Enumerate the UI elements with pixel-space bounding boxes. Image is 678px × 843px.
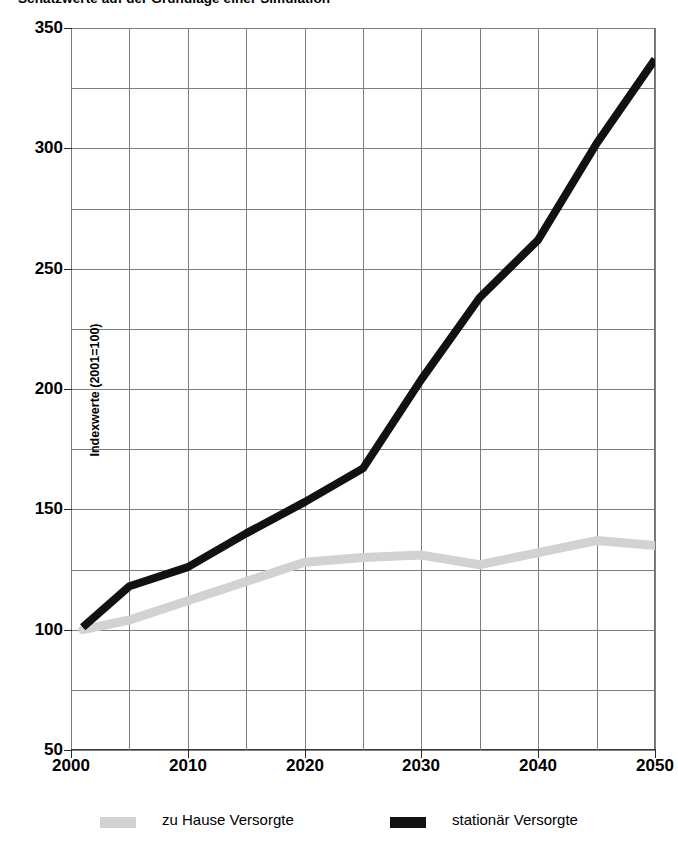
series-line-zu-hause-versorgte	[83, 541, 655, 630]
y-axis-tick-label: 350	[17, 19, 63, 36]
y-axis-tick-labels: 35030025020015010050	[8, 28, 63, 750]
x-axis-tick-label: 2020	[265, 757, 345, 774]
plot-area: Indexwerte (2001=100)	[71, 28, 655, 750]
chart-legend: zu Hause Versorgte stationär Versorgte	[0, 805, 669, 843]
legend-label-stationaer-versorgte: stationär Versorgte	[452, 811, 578, 829]
x-axis-tick-label: 2040	[498, 757, 578, 774]
x-axis-tick-label: 2030	[381, 757, 461, 774]
chart-title: Schätzwerte auf der Grundlage einer Simu…	[18, 0, 330, 6]
y-axis-tick-label: 150	[17, 500, 63, 517]
y-axis-tick-label: 250	[17, 260, 63, 277]
gridline-vertical	[655, 28, 656, 750]
series-lines	[71, 28, 655, 750]
y-axis-title: Indexwerte (2001=100)	[88, 290, 102, 490]
x-axis-tick-labels: 200020102020203020402050	[71, 757, 655, 783]
y-axis-tick-label: 200	[17, 380, 63, 397]
y-axis-tick-label: 300	[17, 139, 63, 156]
legend-label-zu-hause-versorgte: zu Hause Versorgte	[162, 811, 294, 829]
x-axis-tick-label: 2000	[31, 757, 111, 774]
y-axis-tick-label: 100	[17, 621, 63, 638]
x-axis-tick-label: 2050	[615, 757, 678, 774]
legend-swatch-icon-stationaer-versorgte	[390, 817, 426, 828]
gridline-horizontal	[71, 750, 655, 751]
x-axis-tick-label: 2010	[148, 757, 228, 774]
legend-swatch-icon-zu-hause-versorgte	[100, 817, 136, 828]
